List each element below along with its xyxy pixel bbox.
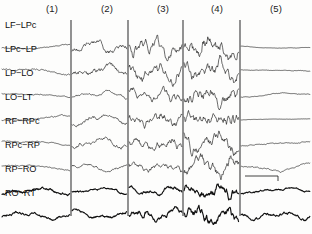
channel-label: RF−RPc xyxy=(5,116,39,126)
channel-label: LP−LO xyxy=(5,68,33,78)
channel-label: LPc−LP xyxy=(5,44,37,54)
eeg-trace xyxy=(2,35,310,61)
channel-label: LF−LPc xyxy=(5,20,36,30)
epoch-label-4: (4) xyxy=(211,3,223,14)
channel-label: RPc−RP xyxy=(5,140,40,150)
channel-label: LO−LT xyxy=(5,92,32,102)
channel-label: RP−RO xyxy=(5,164,36,174)
eeg-trace xyxy=(2,131,310,156)
channel-label: RO−RT xyxy=(5,188,36,198)
eeg-trace xyxy=(2,55,310,86)
eeg-figure: (1)(2)(3)(4)(5) LF−LPcLPc−LPLP−LOLO−LTRF… xyxy=(0,0,312,234)
epoch-label-5: (5) xyxy=(270,3,282,14)
eeg-trace-canvas xyxy=(0,0,312,234)
traces-group xyxy=(2,35,310,224)
eeg-trace xyxy=(2,86,310,110)
epoch-label-2: (2) xyxy=(101,3,113,14)
epoch-label-1: (1) xyxy=(46,3,58,14)
epoch-dividers-group xyxy=(71,20,240,216)
eeg-trace xyxy=(2,110,310,128)
eeg-trace xyxy=(2,184,310,200)
epoch-label-3: (3) xyxy=(157,3,169,14)
time-scale-bar xyxy=(245,176,278,181)
eeg-trace xyxy=(2,205,310,224)
